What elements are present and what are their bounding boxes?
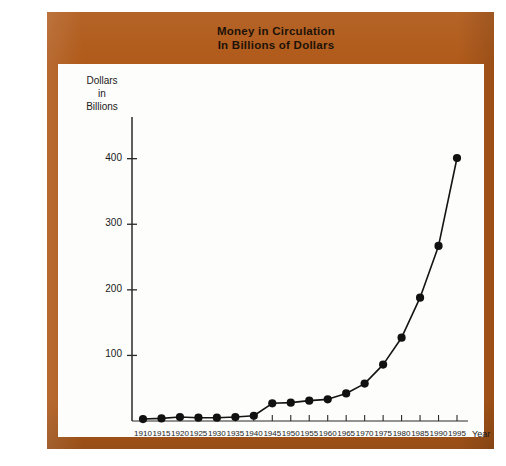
data-point	[231, 413, 239, 421]
tick-marks	[127, 159, 457, 421]
axis-lines	[132, 117, 468, 421]
data-point	[416, 294, 424, 302]
chart-frame: Money in Circulation In Billions of Doll…	[47, 12, 494, 449]
x-tick-label: 1995	[444, 429, 470, 438]
data-point	[434, 242, 442, 250]
y-tick-label: 300	[78, 217, 122, 228]
y-axis-title: Dollars in Billions	[71, 74, 133, 113]
data-point	[287, 399, 295, 407]
data-point	[157, 414, 165, 422]
data-point	[213, 414, 221, 422]
data-point	[361, 380, 369, 388]
y-axis-title-line-1: Dollars	[71, 74, 133, 87]
chart-title: Money in Circulation In Billions of Doll…	[58, 12, 494, 64]
data-point	[324, 395, 332, 403]
y-tick-label: 400	[78, 152, 122, 163]
plot-svg	[58, 64, 484, 437]
data-point	[453, 154, 461, 162]
data-line	[143, 158, 457, 419]
data-point	[379, 361, 387, 369]
chart-title-line-1: Money in Circulation	[217, 24, 335, 39]
x-axis-title: Year	[472, 429, 490, 439]
data-point	[397, 334, 405, 342]
data-point	[194, 414, 202, 422]
data-point	[268, 399, 276, 407]
data-point	[176, 413, 184, 421]
y-axis-title-line-2: in	[71, 87, 133, 100]
data-point-group	[139, 154, 461, 423]
chart-page: Money in Circulation In Billions of Doll…	[0, 0, 506, 466]
y-tick-label: 200	[78, 283, 122, 294]
data-point	[342, 389, 350, 397]
y-tick-label: 100	[78, 348, 122, 359]
y-axis-title-line-3: Billions	[71, 100, 133, 113]
data-point	[305, 397, 313, 405]
data-point	[250, 412, 258, 420]
plot-panel: Dollars in Billions 100200300400 1910191…	[58, 64, 484, 437]
chart-title-line-2: In Billions of Dollars	[218, 38, 335, 53]
chart-canvas: Dollars in Billions 100200300400 1910191…	[58, 64, 484, 437]
data-point	[139, 415, 147, 423]
